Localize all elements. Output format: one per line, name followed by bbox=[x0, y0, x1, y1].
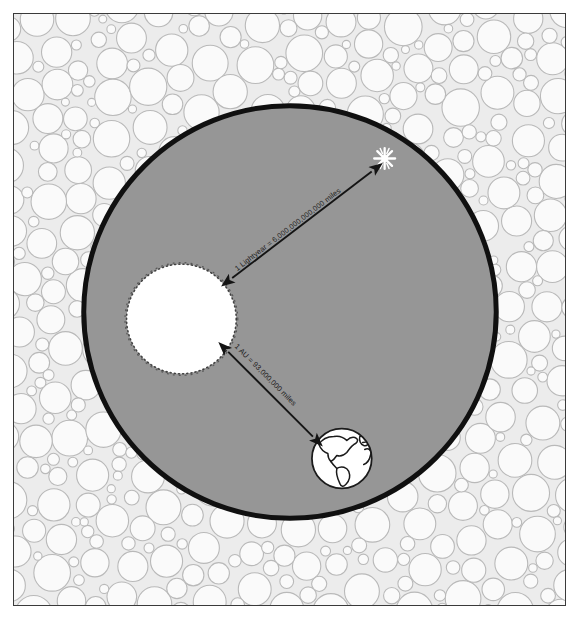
star-icon bbox=[374, 148, 395, 169]
space-scene: 1 Lightyear = 6,000,000,000,000 miles 1 … bbox=[14, 14, 565, 605]
earth bbox=[312, 429, 372, 489]
diagram-root: 1 Lightyear = 6,000,000,000,000 miles 1 … bbox=[0, 0, 580, 631]
figure-frame: 1 Lightyear = 6,000,000,000,000 miles 1 … bbox=[13, 13, 566, 606]
